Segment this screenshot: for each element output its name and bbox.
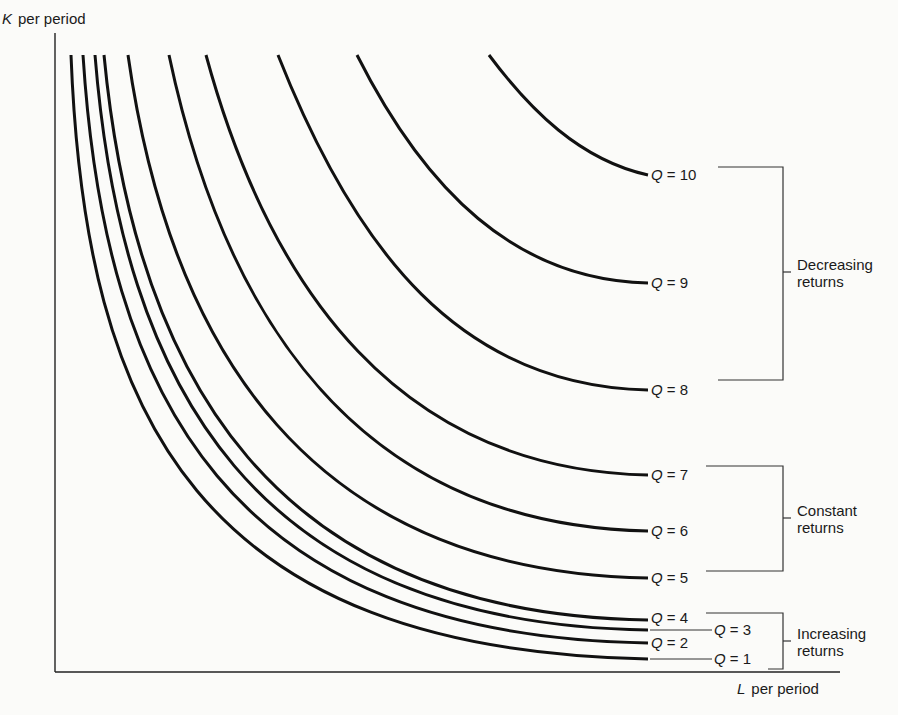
x-axis-variable: L [737, 680, 745, 697]
isoquant-curve-q4 [104, 55, 648, 620]
isoquant-curve-q7 [206, 55, 648, 475]
isoquant-curve-q9 [357, 55, 648, 283]
isoquant-label-q3: Q = 3 [714, 622, 751, 638]
isoquant-label-q7: Q = 7 [651, 467, 688, 483]
y-axis-suffix: per period [18, 10, 86, 27]
isoquant-label-q6: Q = 6 [651, 523, 688, 539]
isoquant-label-q1: Q = 1 [714, 651, 751, 667]
isoquant-label-q10: Q = 10 [651, 167, 696, 183]
bracket-decreasing [718, 167, 783, 380]
x-axis-label: Lper period [737, 680, 819, 697]
bracket-constant [706, 466, 783, 571]
x-axis-suffix: per period [751, 680, 819, 697]
isoquant-label-q5: Q = 5 [651, 570, 688, 586]
constant-returns-label: Constant returns [797, 502, 857, 536]
y-axis-label: Kper period [2, 10, 86, 27]
chart-plot-area [0, 0, 898, 715]
y-axis-variable: K [2, 10, 12, 27]
increasing-returns-label: Increasing returns [797, 625, 866, 659]
isoquant-curve-q1 [71, 55, 648, 659]
isoquant-curve-q6 [169, 55, 648, 531]
isoquant-label-q9: Q = 9 [651, 275, 688, 291]
isoquant-label-q4: Q = 4 [651, 610, 688, 626]
decreasing-returns-label: Decreasing returns [797, 256, 873, 290]
isoquant-curve-q8 [278, 55, 648, 390]
isoquant-label-q8: Q = 8 [651, 382, 688, 398]
isoquant-label-q2: Q = 2 [651, 635, 688, 651]
isoquant-curve-q10 [489, 55, 648, 175]
isoquant-curve-q3 [95, 55, 648, 630]
isoquant-chart: Kper period Lper period Q = 10 Q = 9 Q =… [0, 0, 898, 715]
